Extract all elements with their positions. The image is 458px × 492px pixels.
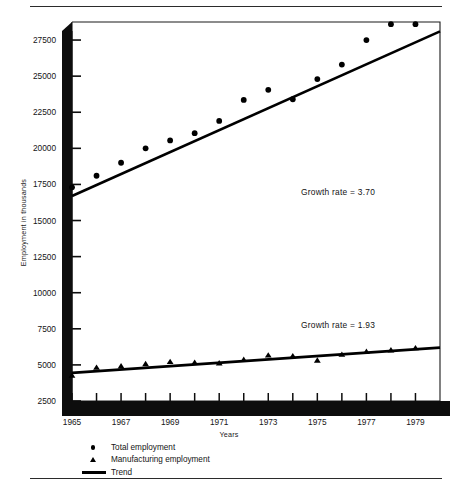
series-total-employment (69, 21, 418, 190)
legend-label-manufacturing-employment: Manufacturing employment (108, 455, 210, 464)
x-tick-marks (72, 393, 415, 401)
chart-page: 2500500075001000012500150001750020000225… (0, 0, 458, 492)
x-tick-label: 1971 (199, 417, 239, 427)
plot-frame (72, 22, 440, 401)
y-tick-label: 2500 (12, 396, 56, 406)
triangle-marker-icon (78, 457, 108, 462)
legend-label-total-employment: Total employment (108, 443, 175, 452)
growth-rate-annotation-total: Growth rate = 3.70 (301, 187, 375, 197)
y-tick-label: 27500 (12, 35, 56, 45)
x-tick-label: 1975 (297, 417, 337, 427)
y-tick-marks (72, 40, 81, 401)
x-tick-label: 1967 (101, 417, 141, 427)
x-tick-label: 1969 (150, 417, 190, 427)
circle-marker-icon (78, 445, 108, 450)
trend-lines (72, 31, 440, 372)
legend-label-trend: Trend (108, 468, 132, 477)
x-axis-title: Years (0, 430, 458, 439)
x-tick-label: 1973 (248, 417, 288, 427)
line-marker-icon (78, 471, 108, 474)
legend-item-manufacturing-employment: Manufacturing employment (78, 454, 210, 467)
chart-legend: Total employment Manufacturing employmen… (78, 441, 210, 479)
x-tick-label: 1977 (346, 417, 386, 427)
y-axis-bar (62, 22, 73, 410)
x-axis-bar (62, 401, 450, 416)
legend-item-total-employment: Total employment (78, 441, 210, 454)
y-tick-label: 7500 (12, 324, 56, 334)
y-tick-label: 5000 (12, 360, 56, 370)
x-tick-label: 1979 (395, 417, 435, 427)
series-manufacturing-employment (69, 345, 419, 378)
y-axis-title: Employment in thousands (19, 153, 28, 293)
y-tick-label: 22500 (12, 107, 56, 117)
growth-rate-annotation-manufacturing: Growth rate = 1.93 (301, 320, 375, 330)
legend-item-trend: Trend (78, 466, 210, 479)
y-tick-label: 25000 (12, 71, 56, 81)
x-tick-label: 1965 (52, 417, 92, 427)
